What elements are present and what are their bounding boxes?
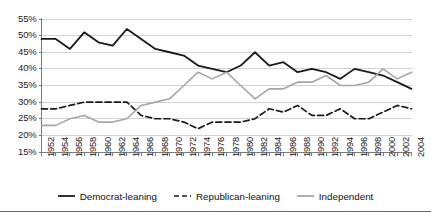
legend-item[interactable]: Republican-leaning: [174, 191, 280, 202]
x-axis-tick-label: 1962: [117, 137, 127, 157]
x-axis-tick-label: 1982: [259, 137, 269, 157]
y-axis-tick-label: 45%: [18, 46, 36, 57]
x-axis-tick-label: 1964: [131, 137, 141, 157]
x-axis-tick-label: 1974: [202, 137, 212, 157]
x-axis-tick-label: 1994: [345, 137, 355, 157]
legend-swatch-solid: [58, 192, 75, 200]
x-axis-tick-label: 1966: [145, 137, 155, 157]
chart-legend: Democrat-leaningRepublican-leaningIndepe…: [0, 186, 431, 206]
x-axis-tick-label: 1980: [245, 137, 255, 157]
y-axis-tick-label: 40%: [18, 62, 36, 73]
x-axis-tick-label: 1968: [160, 137, 170, 157]
legend-label: Democrat-leaning: [80, 191, 157, 202]
x-axis-tick-label: 1956: [74, 137, 84, 157]
y-axis-tick-label: 30%: [18, 96, 36, 107]
y-axis-tick-label: 25%: [18, 112, 36, 123]
legend-item[interactable]: Democrat-leaning: [58, 191, 157, 202]
party-identification-line-chart: 55%50%45%40%35%30%25%20%15% 195219541956…: [0, 0, 431, 219]
series-line-republican-leaning: [42, 102, 412, 129]
x-axis-tick-label: 1984: [273, 137, 283, 157]
y-axis-tick-label: 50%: [18, 29, 36, 40]
y-axis-tick-label: 35%: [18, 79, 36, 90]
x-axis-tick-label: 1976: [216, 137, 226, 157]
x-axis-tick-label: 1978: [231, 137, 241, 157]
x-axis-tick-label: 1990: [316, 137, 326, 157]
series-line-independent: [42, 69, 412, 126]
x-axis-tick-label: 1998: [373, 137, 383, 157]
legend-label: Independent: [319, 191, 373, 202]
x-axis-tick-label: 1972: [188, 137, 198, 157]
x-axis-tick-label: 1992: [330, 137, 340, 157]
legend-item[interactable]: Independent: [297, 191, 373, 202]
x-axis-tick-label: 1970: [174, 137, 184, 157]
series-line-democrat-leaning: [42, 29, 412, 89]
x-axis-tick-label: 1996: [359, 137, 369, 157]
legend-swatch-solid: [297, 192, 314, 200]
x-axis-tick-label: 1986: [288, 137, 298, 157]
x-axis-tick-label: 2004: [416, 137, 426, 157]
x-axis-tick-label: 2002: [401, 137, 411, 157]
x-axis-tick-label: 1988: [302, 137, 312, 157]
x-axis-tick-label: 2000: [387, 137, 397, 157]
y-axis-tick-label: 15%: [18, 146, 36, 157]
x-axis-tick-label: 1952: [46, 137, 56, 157]
data-series-group: [42, 29, 412, 129]
x-axis-tick-label: 1958: [88, 137, 98, 157]
footer-divider: [0, 211, 431, 212]
x-axis-tick-label: 1954: [60, 137, 70, 157]
legend-swatch-dashed: [174, 192, 191, 200]
legend-label: Republican-leaning: [196, 191, 280, 202]
x-axis-tick-label: 1960: [103, 137, 113, 157]
y-axis-tick-label: 20%: [18, 129, 36, 140]
y-axis-tick-label: 55%: [18, 13, 36, 24]
